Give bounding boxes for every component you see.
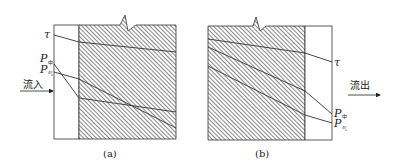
panel-b-p1-sub: 中 [342, 113, 347, 120]
panel-a: τ P 中 P 气 流入 (a) [20, 15, 176, 159]
panel-a-white-layer [54, 25, 79, 139]
panel-b-white-layer [305, 26, 332, 140]
panel-b-flow-label: 流出 [350, 79, 370, 91]
panel-b-tau-label: τ [334, 56, 341, 69]
panel-a-p1-sub: 中 [48, 59, 53, 66]
panel-a-tau-label: τ [44, 28, 51, 41]
panel-b-caption: (b) [255, 148, 269, 159]
panel-b: τ P 中 P 气 流出 (b) [208, 17, 380, 159]
diagram-canvas: τ P 中 P 气 流入 (a) τ P 中 P 气 流出 (b) [0, 0, 395, 167]
panel-b-hatched-block [208, 17, 305, 140]
panel-a-p2-sub: 气 [48, 70, 53, 76]
panel-a-flow-label: 流入 [23, 78, 43, 90]
panel-a-caption: (a) [103, 148, 117, 159]
panel-b-p2-sub: 气 [342, 125, 347, 131]
panel-a-p2-label: P [39, 63, 48, 76]
panel-b-p2-label: P [333, 117, 342, 130]
